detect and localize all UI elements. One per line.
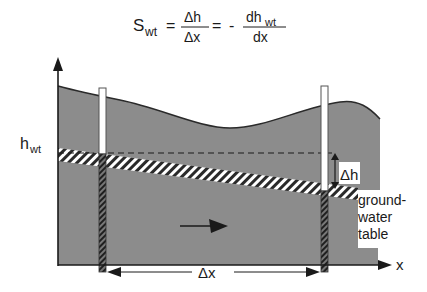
eq-frac2-den: dx — [253, 29, 268, 45]
eq-equals-1: = — [166, 17, 175, 34]
right-well-casing — [321, 86, 328, 191]
delta-x-label: Δx — [198, 264, 216, 281]
eq-equals-2: = — [212, 17, 221, 34]
eq-lhs: S — [133, 16, 144, 35]
hwt-label-sub: wt — [29, 143, 41, 155]
groundwater-label-line3: table — [358, 226, 389, 242]
groundwater-label-line1: ground- — [358, 192, 407, 208]
eq-frac1-num: Δh — [184, 9, 201, 25]
eq-frac1-den: Δx — [184, 29, 200, 45]
left-well-screen — [99, 154, 106, 272]
eq-minus: - — [229, 17, 234, 34]
groundwater-label-line2: water — [357, 209, 393, 225]
eq-lhs-sub: wt — [144, 25, 158, 39]
hwt-label: h — [20, 135, 29, 152]
slope-equation: S wt = Δh Δx = - dh wt dx — [133, 9, 286, 45]
delta-h-label: Δh — [340, 166, 358, 183]
x-axis-label: x — [396, 256, 404, 273]
groundwater-diagram: S wt = Δh Δx = - dh wt dx h wt Δh ground… — [0, 0, 427, 292]
eq-frac2-num: dh — [246, 9, 262, 25]
left-well-casing — [99, 88, 106, 154]
eq-frac2-num-sub: wt — [264, 16, 276, 28]
right-well-screen — [321, 191, 328, 272]
